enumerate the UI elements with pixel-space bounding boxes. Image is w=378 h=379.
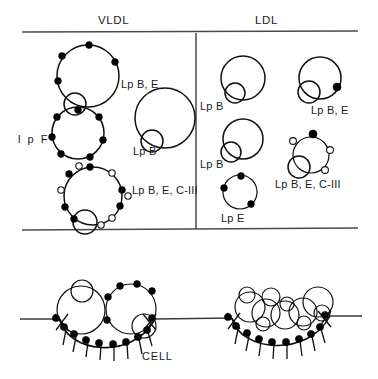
top-rule xyxy=(22,31,358,32)
ldl-lp-b-2-particle xyxy=(221,119,263,162)
label-vldl-lp-f: l p F xyxy=(18,133,49,145)
vldl-lp-b-e-ciii-particle xyxy=(58,163,131,234)
ldl-lp-b-e-ciii-particle xyxy=(288,130,333,178)
bottom-rule xyxy=(22,228,358,230)
label-vldl-lp-b: Lp B xyxy=(133,145,156,157)
lipoprotein-receptor-diagram: VLDL LDL xyxy=(0,0,378,379)
label-ldl-lp-e: Lp E xyxy=(221,212,244,224)
label-ldl-lp-b-e: Lp B, E xyxy=(311,104,348,116)
ldl-lp-e-particle xyxy=(221,173,257,209)
vldl-lp-b-particle xyxy=(135,88,195,152)
label-vldl-lp-b-e: Lp B, E xyxy=(121,78,158,90)
label-ldl-lp-b-2: Lp B xyxy=(200,158,223,170)
label-ldl-lp-b-e-ciii: Lp B, E, C-III xyxy=(275,178,341,190)
label-vldl-lp-b-e-ciii: Lp B, E, C-III xyxy=(132,184,198,196)
ldl-lp-b-1-particle xyxy=(221,56,265,103)
ldl-lp-b-e-particle xyxy=(298,57,341,103)
coated-pit-left-particles xyxy=(57,280,156,338)
label-cell: CELL xyxy=(142,350,173,362)
vldl-lp-b-e-particle xyxy=(55,42,119,115)
label-ldl-lp-b-1: Lp B xyxy=(200,100,223,112)
